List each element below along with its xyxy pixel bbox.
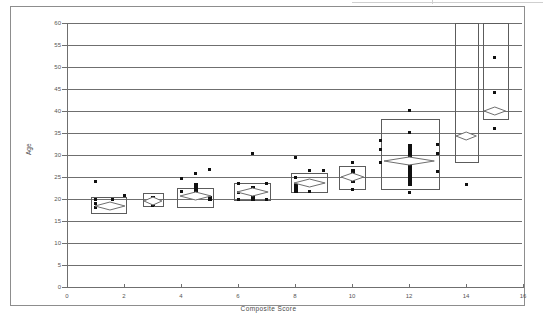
data-point bbox=[265, 182, 268, 185]
quantile-box bbox=[455, 23, 479, 163]
y-axis-tick-label: 30 bbox=[35, 152, 61, 158]
y-axis-tick-label: 0 bbox=[35, 284, 61, 290]
mean-diamond bbox=[293, 178, 326, 188]
x-axis-tick-label: 2 bbox=[114, 293, 134, 299]
chart-page: Age Composite Score 05101520253035404550… bbox=[0, 0, 545, 325]
data-point bbox=[237, 198, 240, 201]
y-axis-tick-label: 40 bbox=[35, 108, 61, 114]
scan-artifact-line bbox=[352, 2, 543, 3]
x-axis-tick-label: 12 bbox=[399, 293, 419, 299]
data-point bbox=[351, 188, 354, 191]
scan-artifact-nub bbox=[432, 0, 433, 4]
data-point bbox=[493, 127, 496, 130]
y-axis-tick-labels: 051015202530354045505560 bbox=[29, 7, 61, 307]
y-axis-tick-label: 5 bbox=[35, 262, 61, 268]
data-point bbox=[322, 169, 325, 172]
data-point bbox=[408, 131, 411, 134]
y-axis-tick-label: 15 bbox=[35, 218, 61, 224]
data-point bbox=[237, 182, 240, 185]
mean-diamond bbox=[383, 156, 435, 166]
data-point bbox=[294, 156, 297, 159]
data-point bbox=[265, 198, 268, 201]
x-axis-line bbox=[67, 287, 523, 288]
mean-diamond bbox=[143, 196, 163, 206]
data-point bbox=[436, 143, 439, 146]
y-axis-tick-label: 45 bbox=[35, 86, 61, 92]
data-point bbox=[408, 191, 411, 194]
y-axis-tick-label: 25 bbox=[35, 174, 61, 180]
data-point bbox=[123, 194, 126, 197]
x-axis-tick-label: 10 bbox=[342, 293, 362, 299]
x-axis-tick-label: 4 bbox=[171, 293, 191, 299]
data-point bbox=[493, 56, 496, 59]
data-point bbox=[436, 170, 439, 173]
x-axis-tick-label: 0 bbox=[57, 293, 77, 299]
y-axis-tick-label: 55 bbox=[35, 42, 61, 48]
x-axis-tick bbox=[523, 284, 524, 288]
y-axis-tick-label: 20 bbox=[35, 196, 61, 202]
data-point bbox=[379, 148, 382, 151]
chart-frame: Age Composite Score 05101520253035404550… bbox=[10, 6, 525, 306]
data-point bbox=[436, 152, 439, 155]
y-axis-tick-label: 60 bbox=[35, 20, 61, 26]
mean-diamond bbox=[94, 201, 126, 211]
x-axis-tick-label: 14 bbox=[456, 293, 476, 299]
x-axis-tick-label: 6 bbox=[228, 293, 248, 299]
data-point bbox=[208, 168, 211, 171]
data-point bbox=[194, 172, 197, 175]
x-axis-title: Composite Score bbox=[11, 305, 526, 312]
data-point bbox=[379, 161, 382, 164]
plot-area bbox=[68, 24, 523, 287]
data-point bbox=[493, 91, 496, 94]
data-point bbox=[180, 177, 183, 180]
x-axis-tick-label: 16 bbox=[513, 293, 533, 299]
data-point bbox=[465, 183, 468, 186]
mean-diamond bbox=[340, 172, 365, 182]
data-point bbox=[308, 190, 311, 193]
data-point bbox=[94, 180, 97, 183]
data-point bbox=[408, 109, 411, 112]
data-point bbox=[351, 161, 354, 164]
mean-diamond bbox=[236, 187, 269, 197]
data-point-cluster bbox=[408, 144, 412, 153]
mean-diamond bbox=[455, 131, 477, 141]
data-point bbox=[251, 152, 254, 155]
data-point bbox=[379, 139, 382, 142]
mean-diamond bbox=[179, 191, 212, 201]
y-axis-tick-label: 35 bbox=[35, 130, 61, 136]
x-axis-tick-label: 8 bbox=[285, 293, 305, 299]
data-point bbox=[308, 169, 311, 172]
y-axis-tick-label: 10 bbox=[35, 240, 61, 246]
y-axis-tick-label: 50 bbox=[35, 64, 61, 70]
mean-diamond bbox=[483, 106, 507, 116]
